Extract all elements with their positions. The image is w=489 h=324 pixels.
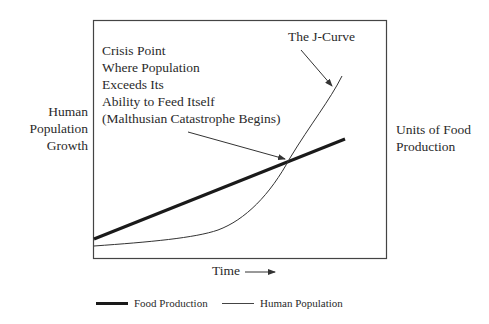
legend-human: Human Population (222, 297, 343, 309)
crisis-line: Ability to Feed Itself (102, 93, 280, 110)
right-axis-label: Units of Food Production (396, 121, 471, 155)
jcurve-arrow (301, 50, 332, 86)
crisis-annotation: Crisis Point Where Population Exceeds It… (102, 42, 280, 127)
crisis-line: (Malthusian Catastrophe Begins) (102, 110, 280, 127)
legend-thick-line-icon (96, 302, 128, 305)
crisis-line: Where Population (102, 59, 280, 76)
left-axis-line: Growth (0, 137, 88, 154)
right-axis-line: Units of Food (396, 121, 471, 138)
legend-thin-line-icon (222, 303, 254, 304)
left-axis-line: Population (0, 120, 88, 137)
left-axis-label: Human Population Growth (0, 103, 88, 154)
legend-food-label: Food Production (134, 297, 208, 309)
x-axis-label: Time (212, 262, 240, 279)
left-axis-line: Human (0, 103, 88, 120)
crisis-arrow (188, 132, 285, 159)
right-axis-line: Production (396, 138, 471, 155)
crisis-line: Crisis Point (102, 42, 280, 59)
food-production-line (94, 139, 345, 239)
legend-food: Food Production (96, 297, 208, 309)
jcurve-annotation: The J-Curve (288, 28, 355, 45)
crisis-line: Exceeds Its (102, 76, 280, 93)
legend-human-label: Human Population (260, 297, 343, 309)
